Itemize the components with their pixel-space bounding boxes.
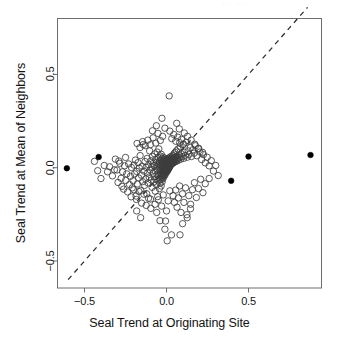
data-point [152, 201, 158, 207]
data-point [162, 226, 168, 232]
data-point [179, 220, 185, 226]
data-point [182, 185, 188, 191]
data-point [167, 188, 173, 194]
data-point [164, 238, 170, 244]
x-tick-label-2: 0.5 [241, 295, 256, 307]
data-point [179, 191, 185, 197]
plot-frame-rect [58, 19, 322, 289]
data-point [163, 208, 169, 214]
data-point [166, 93, 172, 99]
data-point [148, 205, 154, 211]
y-tick-label-0: −0.5 [44, 250, 56, 271]
data-point [94, 167, 100, 173]
data-point [115, 179, 121, 185]
data-point [189, 187, 195, 193]
data-point [206, 175, 212, 181]
data-point [176, 183, 182, 189]
data-point [177, 232, 183, 238]
plot-frame [58, 19, 322, 289]
data-point [228, 178, 234, 184]
x-tick-label-1: 0.0 [159, 295, 174, 307]
data-point [213, 162, 219, 168]
data-point [96, 154, 102, 160]
data-point [154, 209, 160, 215]
data-point [246, 154, 252, 160]
data-point [122, 154, 128, 160]
data-point [137, 152, 143, 158]
data-point [162, 125, 168, 131]
data-point [175, 195, 181, 201]
data-point [178, 209, 184, 215]
open-circle-data-points [91, 93, 221, 244]
data-point [173, 187, 179, 193]
data-point [121, 163, 127, 169]
figure-container: · · ·· · −0.50.00.5−0.50.00.5 Seal Trend… [0, 0, 339, 342]
x-axis-title: Seal Trend at Originating Site [0, 316, 339, 330]
data-point [98, 175, 104, 181]
data-point [165, 198, 171, 204]
data-point [149, 128, 155, 134]
identity-reference-line [68, 7, 307, 279]
data-point [191, 179, 197, 185]
data-point [64, 165, 70, 171]
data-point [186, 192, 192, 198]
data-point [119, 169, 125, 175]
reference-line-0 [68, 7, 307, 279]
data-point [308, 152, 314, 158]
data-point [158, 203, 164, 209]
data-point [160, 192, 166, 198]
data-point [137, 214, 143, 220]
data-point [159, 115, 165, 121]
data-point [168, 232, 174, 238]
data-point [187, 206, 193, 212]
data-point [200, 190, 206, 196]
y-tick-label-2: 0.5 [44, 67, 56, 82]
data-point [134, 208, 140, 214]
y-axis-title: Seal Trend at Mean of Neighbors [14, 3, 28, 303]
y-tick-label-1: 0.0 [44, 160, 56, 175]
data-point [215, 172, 221, 178]
data-point [181, 199, 187, 205]
data-point [193, 194, 199, 200]
x-tick-label-0: −0.5 [74, 295, 95, 307]
